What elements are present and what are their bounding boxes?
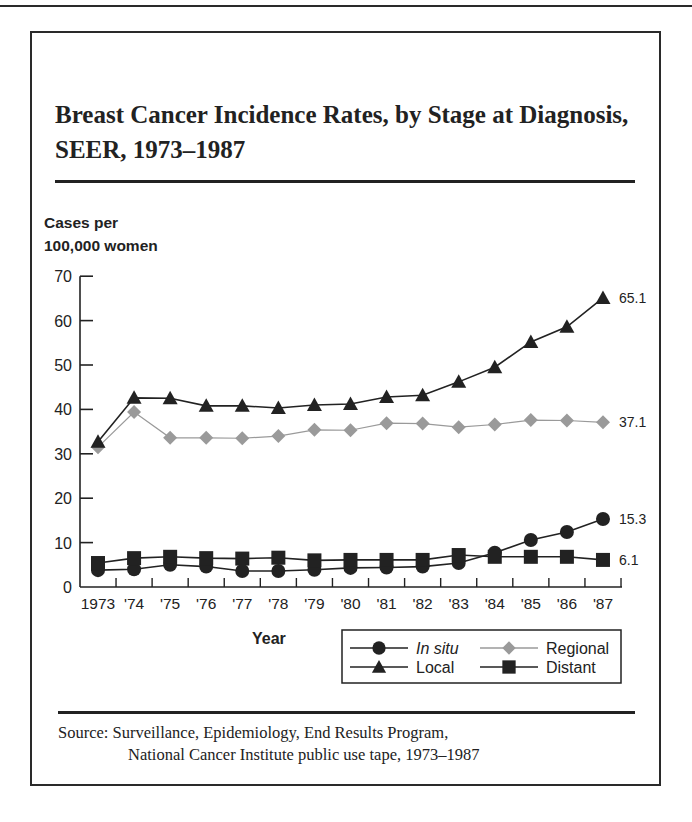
diamond-marker-icon <box>235 431 249 445</box>
triangle-marker-icon <box>559 319 574 333</box>
x-tick-label: '85 <box>521 595 541 612</box>
circle-marker-icon <box>560 525 574 539</box>
y-tick-label: 20 <box>54 490 72 507</box>
x-tick-label: '77 <box>232 595 252 612</box>
triangle-marker-icon <box>415 388 430 402</box>
y-tick-label: 40 <box>54 401 72 418</box>
x-tick-label: '78 <box>268 595 288 612</box>
diamond-marker-icon <box>343 423 357 437</box>
x-tick-label: '76 <box>196 595 216 612</box>
y-tick-label: 10 <box>54 535 72 552</box>
series-in-situ: 15.3 <box>91 511 646 578</box>
circle-marker-icon <box>372 641 385 654</box>
legend-label: Regional <box>546 640 609 657</box>
series-local: 65.1 <box>91 290 647 448</box>
square-marker-icon <box>307 553 321 567</box>
y-tick-label: 70 <box>54 268 72 285</box>
end-value-label: 15.3 <box>619 511 646 527</box>
diamond-marker-icon <box>452 420 466 434</box>
circle-marker-icon <box>596 512 610 526</box>
triangle-marker-icon <box>595 290 610 304</box>
chart-legend: In situRegionalLocalDistant <box>342 630 621 683</box>
circle-marker-icon <box>271 564 285 578</box>
source-rule <box>58 711 635 714</box>
source-line-2: National Cancer Institute public use tap… <box>58 744 479 766</box>
square-marker-icon <box>380 553 394 567</box>
x-tick-label: 1973 <box>81 595 115 612</box>
diamond-marker-icon <box>199 431 213 445</box>
square-marker-icon <box>127 551 141 565</box>
x-tick-label: '81 <box>376 595 396 612</box>
diamond-marker-icon <box>596 415 610 429</box>
square-marker-icon <box>343 553 357 567</box>
x-tick-label: '80 <box>340 595 361 612</box>
x-tick-label: '87 <box>593 595 613 612</box>
diamond-marker-icon <box>560 414 574 428</box>
diamond-marker-icon <box>416 417 430 431</box>
square-marker-icon <box>199 551 213 565</box>
y-tick-label: 30 <box>54 446 72 463</box>
end-value-label: 6.1 <box>619 552 639 568</box>
square-marker-icon <box>163 550 177 564</box>
x-tick-label: '86 <box>557 595 577 612</box>
series-regional: 37.1 <box>91 405 646 454</box>
diamond-marker-icon <box>380 416 394 430</box>
y-tick-label: 60 <box>54 313 72 330</box>
end-value-label: 37.1 <box>619 414 646 430</box>
triangle-marker-icon <box>451 374 466 388</box>
x-tick-label: '84 <box>485 595 506 612</box>
line-chart: 0102030405060701973'74'75'76'77'78'79'80… <box>0 0 692 822</box>
end-value-label: 65.1 <box>619 290 646 306</box>
legend-label: Distant <box>546 659 596 676</box>
diamond-marker-icon <box>488 417 502 431</box>
source-line-1: Source: Surveillance, Epidemiology, End … <box>58 723 448 742</box>
y-tick-label: 0 <box>63 579 72 596</box>
square-marker-icon <box>235 552 249 566</box>
triangle-marker-icon <box>523 334 538 348</box>
x-tick-label: '74 <box>124 595 145 612</box>
legend-label: Local <box>416 659 454 676</box>
circle-marker-icon <box>524 533 538 547</box>
x-tick-label: '79 <box>304 595 324 612</box>
diamond-marker-icon <box>271 429 285 443</box>
square-marker-icon <box>488 550 502 564</box>
source-note: Source: Surveillance, Epidemiology, End … <box>58 722 479 766</box>
y-tick-label: 50 <box>54 357 72 374</box>
square-marker-icon <box>452 548 466 562</box>
triangle-marker-icon <box>487 360 502 374</box>
x-tick-label: '83 <box>449 595 469 612</box>
legend-label: In situ <box>416 640 459 657</box>
square-marker-icon <box>416 553 430 567</box>
square-marker-icon <box>524 550 538 564</box>
diamond-marker-icon <box>307 423 321 437</box>
x-tick-label: '82 <box>413 595 433 612</box>
diamond-marker-icon <box>163 431 177 445</box>
square-marker-icon <box>271 551 285 565</box>
diamond-marker-icon <box>524 413 538 427</box>
square-marker-icon <box>91 556 105 570</box>
chart-series: 37.165.115.36.1 <box>91 290 647 578</box>
x-tick-label: '75 <box>160 595 180 612</box>
square-marker-icon <box>560 550 574 564</box>
circle-marker-icon <box>235 564 249 578</box>
square-marker-icon <box>502 660 515 673</box>
triangle-marker-icon <box>127 390 142 404</box>
square-marker-icon <box>596 553 610 567</box>
